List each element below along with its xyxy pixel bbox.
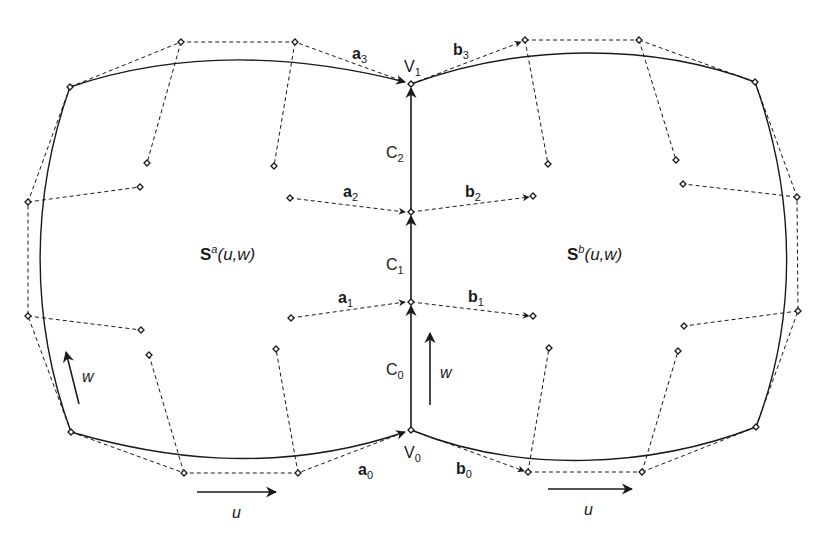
boundary-curve-right-b — [755, 82, 787, 427]
control-point-marker — [546, 345, 552, 351]
control-point-marker — [271, 163, 277, 169]
control-point-marker — [146, 352, 152, 358]
boundary-curve-left-a — [40, 87, 71, 432]
label-b0: b0 — [456, 460, 472, 480]
control-points — [25, 37, 801, 476]
label-c2: C2 — [386, 144, 404, 164]
label-c0: C0 — [386, 361, 404, 381]
control-polygon-edge — [28, 87, 71, 432]
tangent-vector-a2 — [290, 198, 405, 212]
control-point-marker — [181, 470, 187, 476]
label-b3: b3 — [453, 41, 469, 61]
control-point-marker — [545, 161, 551, 167]
label-b1: b1 — [468, 288, 484, 308]
control-point-marker — [408, 209, 414, 215]
patch-a-label: Sa(u,w) — [200, 243, 255, 264]
label-c1: C1 — [386, 256, 404, 276]
control-point-marker — [292, 39, 298, 45]
control-point-marker — [25, 199, 31, 205]
boundary-curve-bottom-a — [71, 432, 405, 459]
control-point-marker — [408, 299, 414, 305]
control-point-marker — [68, 429, 74, 435]
label-b2: b2 — [465, 183, 481, 203]
control-point-marker — [673, 157, 679, 163]
control-point-marker — [752, 79, 758, 85]
control-point-marker — [408, 81, 414, 87]
control-point-marker — [522, 37, 528, 43]
control-point-marker — [530, 193, 536, 199]
label-w-b: w — [440, 364, 453, 381]
control-polygon-edge — [525, 40, 548, 164]
label-a3: a3 — [352, 45, 367, 65]
control-point-marker — [288, 315, 294, 321]
control-point-marker — [794, 194, 800, 200]
control-point-marker — [530, 313, 536, 319]
control-polygon-edge — [683, 184, 797, 197]
patch-b-label: Sb(u,w) — [567, 243, 622, 264]
control-point-marker — [525, 469, 531, 475]
label-u-b: u — [584, 501, 593, 518]
control-polygon-edge — [528, 348, 549, 472]
control-point-marker — [273, 346, 279, 352]
control-point-marker — [675, 348, 681, 354]
control-point-marker — [753, 424, 759, 430]
label-v1: V1 — [404, 58, 421, 78]
control-polygon-edge — [147, 42, 181, 163]
control-polygon-edge — [684, 311, 798, 326]
labels: Sa(u,w) Sb(u,w) a0 a1 a2 a3 b0 b1 b2 b3 … — [82, 41, 622, 521]
label-w-a: w — [82, 368, 95, 385]
control-point-marker — [295, 470, 301, 476]
control-polygon-edge — [71, 432, 405, 473]
control-point-marker — [681, 323, 687, 329]
control-point-marker — [636, 37, 642, 43]
control-polygon-edge — [755, 82, 798, 427]
control-point-marker — [639, 469, 645, 475]
label-u-a: u — [232, 504, 241, 521]
control-point-marker — [144, 160, 150, 166]
control-point-marker — [287, 195, 293, 201]
control-point-marker — [137, 184, 143, 190]
label-v0: V0 — [404, 444, 421, 464]
control-polygon-edge — [149, 355, 184, 473]
control-point-marker — [408, 427, 414, 433]
control-point-marker — [680, 181, 686, 187]
control-point-marker — [795, 308, 801, 314]
label-a2: a2 — [343, 183, 358, 203]
control-point-marker — [178, 39, 184, 45]
boundary-curve-bottom-b — [411, 427, 756, 460]
label-a1: a1 — [338, 289, 353, 309]
patch-continuity-diagram: Sa(u,w) Sb(u,w) a0 a1 a2 a3 b0 b1 b2 b3 … — [0, 0, 821, 537]
label-a0: a0 — [358, 461, 373, 481]
w-direction-arrow-a — [66, 352, 79, 404]
control-point-marker — [25, 313, 31, 319]
control-point-marker — [67, 84, 73, 90]
control-polygon-edge — [276, 349, 298, 473]
control-point-marker — [138, 327, 144, 333]
